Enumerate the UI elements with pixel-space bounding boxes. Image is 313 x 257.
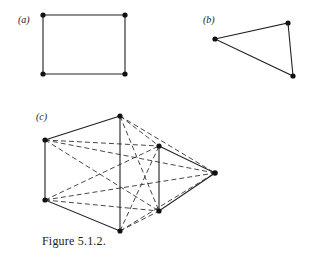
panel-c-label: (c)	[36, 111, 47, 122]
panel-b-label: (b)	[203, 14, 215, 25]
panel-c-dashed-edges	[45, 116, 215, 231]
panel-a-graph	[43, 15, 125, 74]
figure-caption: Figure 5.1.2.	[42, 234, 106, 249]
panel-c-solid-edges	[45, 116, 215, 231]
panel-b-graph	[215, 23, 293, 76]
panel-a-label: (a)	[18, 14, 30, 25]
figure-canvas	[0, 0, 313, 257]
panel-c-vertices	[42, 113, 217, 233]
panel-b-vertices	[212, 20, 295, 78]
panel-a-vertices	[40, 12, 127, 76]
